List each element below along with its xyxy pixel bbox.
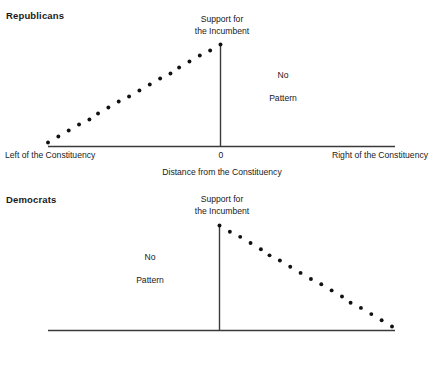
- trend-dot: [137, 89, 141, 93]
- trend-dot: [208, 49, 212, 53]
- plot-area-democrats: [0, 185, 443, 365]
- dotted-trend-line-democrats: [218, 224, 394, 329]
- trend-dot: [87, 118, 91, 122]
- x-axis-left-end-label-republicans: Left of the Constituency: [5, 150, 95, 160]
- trend-dot: [299, 271, 303, 275]
- dotted-trend-line-republicans: [46, 43, 222, 145]
- trend-dot: [359, 306, 363, 310]
- trend-dot: [380, 318, 384, 322]
- trend-dot: [278, 259, 282, 263]
- trend-dot: [188, 60, 192, 64]
- trend-dot: [96, 112, 100, 116]
- trend-dot: [228, 230, 232, 234]
- trend-dot: [249, 241, 253, 245]
- trend-dot: [259, 247, 263, 251]
- trend-dot: [67, 129, 71, 133]
- trend-dot: [349, 301, 353, 305]
- trend-dot: [46, 141, 50, 145]
- chart-panel-republicans: Republicans Support for the Incumbent No…: [0, 0, 443, 185]
- trend-dot: [268, 253, 272, 257]
- x-axis-right-end-label-republicans: Right of the Constituency: [332, 150, 428, 160]
- trend-dot: [148, 83, 152, 87]
- x-tick-zero-republicans: 0: [201, 150, 241, 160]
- trend-dot: [198, 54, 202, 58]
- trend-dot: [330, 288, 334, 292]
- trend-dot: [106, 106, 110, 110]
- trend-dot: [117, 100, 121, 104]
- trend-dot: [177, 66, 181, 70]
- trend-dot: [319, 282, 323, 286]
- trend-dot: [77, 123, 81, 127]
- trend-dot: [369, 312, 373, 316]
- trend-dot: [288, 265, 292, 269]
- trend-dot: [158, 77, 162, 81]
- trend-dot: [127, 95, 131, 99]
- trend-dot: [56, 135, 60, 139]
- x-axis-title-republicans: Distance from the Constituency: [132, 167, 312, 177]
- trend-dot: [340, 295, 344, 299]
- trend-dot: [309, 277, 313, 281]
- trend-dot: [390, 324, 394, 328]
- trend-dot: [218, 224, 222, 228]
- trend-dot: [238, 235, 242, 239]
- trend-dot: [219, 43, 223, 47]
- chart-panel-democrats: Democrats Support for the Incumbent No P…: [0, 185, 443, 365]
- trend-dot: [169, 72, 173, 76]
